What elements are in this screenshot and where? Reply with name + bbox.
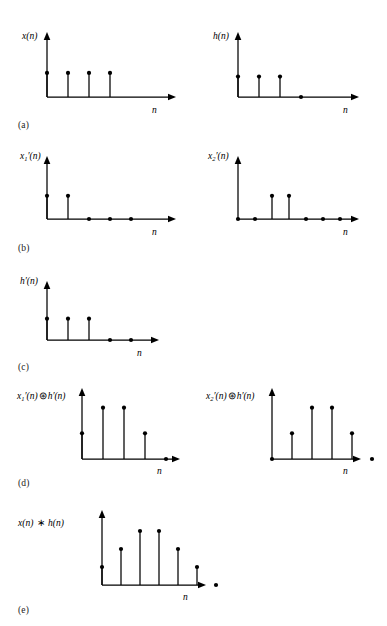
- figure-canvas: (a)x(n)nh(n)n(b)x1′(n)nx2′(n)n(c)h′(n)n(…: [0, 0, 387, 626]
